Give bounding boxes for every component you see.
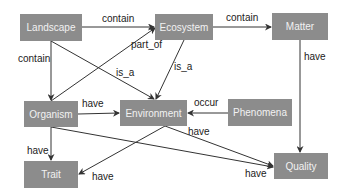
node-quality[interactable]: Quality [274,153,328,179]
edge-label-phenomena-environment: occur [194,97,218,108]
edge-organism-environment [78,113,119,114]
node-environment[interactable]: Environment [120,100,187,126]
node-matter[interactable]: Matter [272,13,328,40]
edge-label-environment-quality: have [188,126,210,137]
edge-label-organism-environment: have [82,98,104,109]
edge-label-matter-quality: have [304,51,326,62]
node-trait[interactable]: Trait [24,161,78,188]
node-ecosystem[interactable]: Ecosystem [155,14,213,40]
edge-label-ecosystem-environment: is_a [174,61,192,72]
edge-environment-trait [79,126,165,174]
edge-organism-quality [51,127,273,167]
edge-label-landscape-environment: is_a [116,67,134,78]
concept-diagram: Landscape Ecosystem Matter Organism Envi… [0,0,346,195]
edge-label-landscape-ecosystem: contain [102,13,134,24]
edge-environment-quality [165,126,273,166]
node-landscape[interactable]: Landscape [20,14,82,41]
node-phenomena[interactable]: Phenomena [228,99,292,126]
node-organism[interactable]: Organism [24,101,78,127]
edge-label-organism-quality: have [245,168,267,179]
edge-label-organism-ecosystem: part_of [131,39,162,50]
edge-label-landscape-organism: contain [18,53,50,64]
edge-label-ecosystem-matter: contain [226,12,258,23]
edge-label-environment-trait: have [92,171,114,182]
edge-label-organism-trait: have [27,145,49,156]
